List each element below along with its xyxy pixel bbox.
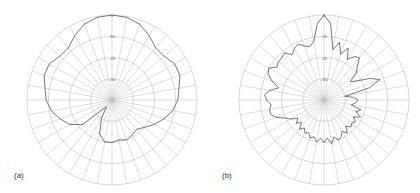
panel-label-b: (b) — [222, 171, 232, 180]
radial-tick-label: -10 — [321, 34, 328, 39]
radial-tick-label: -30 — [109, 77, 116, 82]
polar-figure: 0-10-20-30 0-10-20-30 — [0, 0, 420, 193]
radial-tick-label: -20 — [321, 56, 328, 61]
radial-tick-label: -20 — [109, 56, 116, 61]
radial-tick-label: -30 — [321, 77, 328, 82]
panel-label-a: (a) — [14, 171, 24, 180]
polar-plot-a: 0-10-20-30 — [27, 13, 197, 185]
radial-tick-label: -10 — [109, 34, 116, 39]
polar-plot-b: 0-10-20-30 — [239, 13, 409, 185]
